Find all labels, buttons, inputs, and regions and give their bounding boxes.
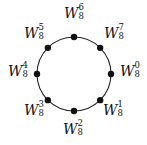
label-subscript: 8 <box>118 32 123 41</box>
label-subscript: 8 <box>38 109 43 118</box>
root-point-0 <box>108 71 114 77</box>
label-base: W <box>24 103 38 117</box>
label-base: W <box>8 64 22 78</box>
root-label-2: W28 <box>63 122 83 140</box>
label-scripts: 28 <box>77 119 82 137</box>
label-scripts: 18 <box>117 100 122 118</box>
label-subscript: 8 <box>117 109 122 118</box>
label-base: W <box>120 64 134 78</box>
root-label-7: W78 <box>104 26 124 44</box>
label-scripts: 58 <box>38 23 43 41</box>
root-point-5 <box>45 45 51 51</box>
label-subscript: 8 <box>134 70 139 79</box>
label-base: W <box>104 26 118 40</box>
root-point-3 <box>45 97 51 103</box>
label-base: W <box>64 6 78 20</box>
root-label-5: W58 <box>24 26 44 44</box>
root-label-0: W08 <box>120 64 140 82</box>
label-base: W <box>24 26 38 40</box>
label-base: W <box>63 122 77 136</box>
label-subscript: 8 <box>22 70 27 79</box>
label-subscript: 8 <box>77 128 82 137</box>
label-base: W <box>103 103 117 117</box>
label-scripts: 08 <box>134 61 139 79</box>
root-label-6: W68 <box>64 6 84 24</box>
label-scripts: 78 <box>118 23 123 41</box>
root-point-4 <box>34 71 40 77</box>
root-label-1: W18 <box>103 103 123 121</box>
root-label-4: W48 <box>8 64 28 82</box>
label-subscript: 8 <box>78 12 83 21</box>
label-scripts: 48 <box>22 61 27 79</box>
root-point-6 <box>71 34 77 40</box>
root-point-7 <box>97 45 103 51</box>
label-scripts: 38 <box>38 100 43 118</box>
root-label-3: W38 <box>24 103 44 121</box>
root-point-2 <box>71 108 77 114</box>
label-subscript: 8 <box>38 32 43 41</box>
label-scripts: 68 <box>78 3 83 21</box>
